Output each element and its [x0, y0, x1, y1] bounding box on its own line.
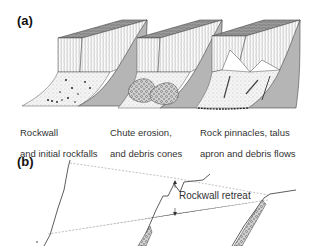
caption-stage-3-line2: apron and debris flows: [200, 149, 296, 160]
caption-stage-1: Rockwall and initial rockfalls: [20, 117, 98, 170]
caption-stage-2-line1: Chute erosion,: [110, 128, 182, 139]
caption-stage-1-line2: and initial rockfalls: [20, 149, 98, 160]
caption-stage-3: Rock pinnacles, talus apron and debris f…: [200, 117, 296, 170]
caption-stage-3-line1: Rock pinnacles, talus: [200, 128, 296, 139]
caption-stage-1-line1: Rockwall: [20, 128, 98, 139]
block-rockwall-initial: [22, 20, 147, 106]
caption-stage-2-line2: and debris cones: [110, 149, 182, 160]
caption-stage-2: Chute erosion, and debris cones: [110, 117, 182, 170]
rockwall-retreat-label: Rockwall retreat: [179, 190, 251, 201]
rockwall-retreat-profile: [36, 160, 296, 246]
